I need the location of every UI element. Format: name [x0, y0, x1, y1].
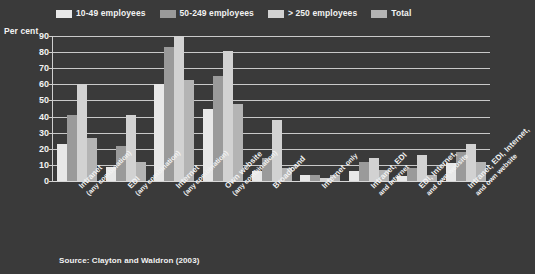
bar — [300, 175, 310, 181]
chart-legend: 10-49 employees 50-249 employees > 250 e… — [56, 9, 411, 18]
legend-item-50-249: 50-249 employees — [160, 9, 254, 18]
bar — [349, 171, 359, 181]
legend-label-10-49: 10-49 employees — [76, 9, 146, 18]
bar — [310, 175, 320, 181]
legend-item-10-49: 10-49 employees — [56, 9, 146, 18]
legend-swatch-250-plus — [268, 10, 284, 18]
legend-item-total: Total — [371, 9, 411, 18]
bar — [77, 84, 87, 181]
y-axis-tick-label: 90 — [19, 32, 49, 41]
y-axis-tick-label: 0 — [19, 177, 49, 186]
legend-label-total: Total — [391, 9, 411, 18]
y-axis-tick-label: 30 — [19, 128, 49, 137]
bar — [359, 162, 369, 181]
legend-swatch-50-249 — [160, 10, 176, 18]
legend-swatch-10-49 — [56, 10, 72, 18]
bar — [67, 115, 77, 181]
bar-group — [53, 36, 102, 181]
legend-label-50-249: 50-249 employees — [180, 9, 254, 18]
bar — [57, 144, 67, 181]
y-axis-tick-label: 10 — [19, 160, 49, 169]
y-axis-tick-label: 70 — [19, 64, 49, 73]
bar — [223, 51, 233, 182]
y-axis-tick-label: 40 — [19, 112, 49, 121]
source-note: Source: Clayton and Waldron (2003) — [59, 256, 199, 265]
y-axis-tick-label: 80 — [19, 48, 49, 57]
legend-item-250-plus: > 250 employees — [268, 9, 357, 18]
y-axis-tick-label: 20 — [19, 144, 49, 153]
y-axis-tick-label: 50 — [19, 96, 49, 105]
legend-label-250-plus: > 250 employees — [288, 9, 357, 18]
bar — [126, 115, 136, 181]
legend-swatch-total — [371, 10, 387, 18]
y-axis-tick-label: 60 — [19, 80, 49, 89]
x-axis-labels: Intranet(any combination)EDI(any combina… — [52, 182, 489, 262]
